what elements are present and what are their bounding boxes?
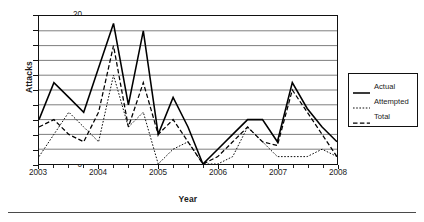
x-tick-minor	[128, 165, 129, 168]
x-tick-label: 2004	[81, 168, 115, 177]
x-tick-label: 2007	[261, 168, 295, 177]
x-tick-minor	[248, 165, 249, 168]
series-lines	[39, 16, 337, 164]
legend-swatch-dashed	[353, 113, 370, 121]
series-line-attempted	[39, 75, 337, 164]
x-tick-label: 2008	[321, 168, 355, 177]
x-tick-minor	[188, 165, 189, 168]
y-axis-title: Attacks	[24, 47, 34, 107]
footer-divider	[8, 212, 416, 213]
legend-item-actual: Actual	[353, 79, 417, 94]
series-line-total	[39, 46, 337, 164]
x-tick-minor	[68, 165, 69, 168]
x-tick-minor	[308, 165, 309, 168]
x-tick-label: 2006	[201, 168, 235, 177]
legend-swatch-dotted	[353, 98, 370, 106]
attacks-by-year-line-chart: Attacks 02468101214161820 20032004200520…	[0, 0, 424, 222]
x-tick-label: 2005	[141, 168, 175, 177]
chart-legend: ActualAttemptedTotal	[348, 73, 418, 127]
plot-area	[38, 15, 338, 165]
legend-label: Total	[374, 112, 390, 121]
legend-label: Attempted	[374, 97, 409, 106]
x-tick-label: 2003	[21, 168, 55, 177]
legend-swatch-solid	[353, 83, 370, 91]
legend-label: Actual	[374, 82, 395, 91]
x-axis-title: Year	[0, 194, 376, 204]
